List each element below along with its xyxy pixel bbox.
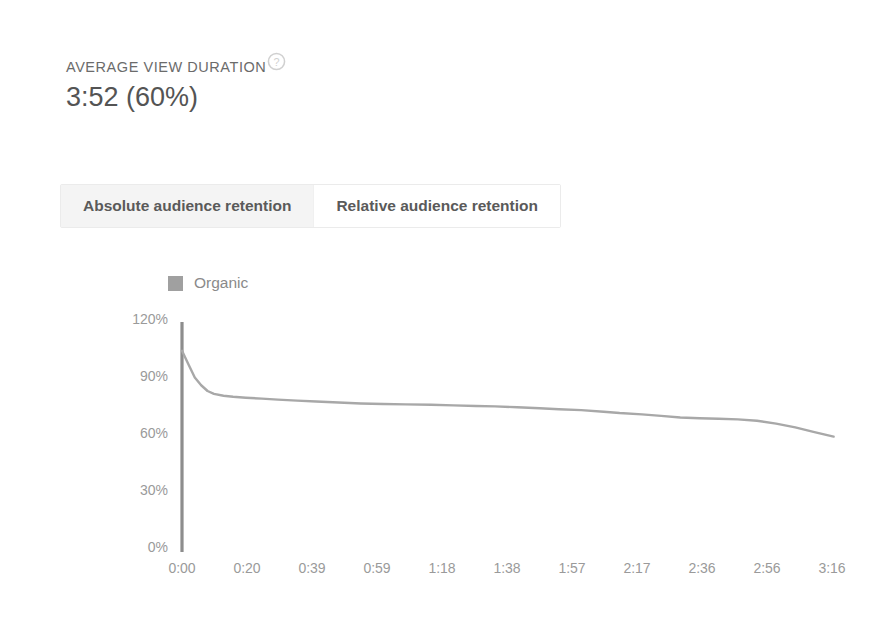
x-tick-label: 1:18 xyxy=(428,561,455,575)
svg-text:?: ? xyxy=(274,56,280,68)
x-tick-label: 3:16 xyxy=(818,561,845,575)
chart-legend: Organic xyxy=(168,272,248,294)
retention-curve-organic xyxy=(182,351,834,437)
x-tick-label: 1:57 xyxy=(558,561,585,575)
legend-label-organic: Organic xyxy=(194,274,248,292)
y-tick-label: 0% xyxy=(148,540,168,554)
x-tick-label: 2:36 xyxy=(688,561,715,575)
x-tick-label: 2:17 xyxy=(623,561,650,575)
x-tick-label: 0:59 xyxy=(363,561,390,575)
x-tick-label: 2:56 xyxy=(753,561,780,575)
tab-relative-audience-retention[interactable]: Relative audience retention xyxy=(314,185,560,227)
y-axis-labels: 120% 90% 60% 30% 0% xyxy=(96,0,168,627)
x-tick-label: 0:00 xyxy=(168,561,195,575)
x-tick-label: 1:38 xyxy=(493,561,520,575)
legend-swatch-organic xyxy=(168,276,183,291)
y-tick-label: 60% xyxy=(140,426,168,440)
y-tick-label: 90% xyxy=(140,369,168,383)
x-tick-label: 0:20 xyxy=(233,561,260,575)
y-tick-label: 30% xyxy=(140,483,168,497)
help-circle-icon[interactable]: ? xyxy=(267,52,286,71)
y-tick-label: 120% xyxy=(132,312,168,326)
x-tick-label: 0:39 xyxy=(298,561,325,575)
